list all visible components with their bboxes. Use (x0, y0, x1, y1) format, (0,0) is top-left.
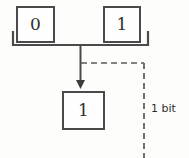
bit-diagram: 0 1 1 1 bit (0, 0, 189, 158)
input-box-right: 1 (103, 6, 141, 43)
arrow-head-icon (76, 80, 85, 89)
bit-annotation-label: 1 bit (151, 102, 176, 115)
input-box-right-value: 1 (117, 16, 128, 33)
output-box: 1 (62, 91, 105, 130)
input-box-left: 0 (16, 6, 55, 43)
output-box-value: 1 (78, 102, 89, 119)
input-box-left-value: 0 (30, 16, 41, 33)
